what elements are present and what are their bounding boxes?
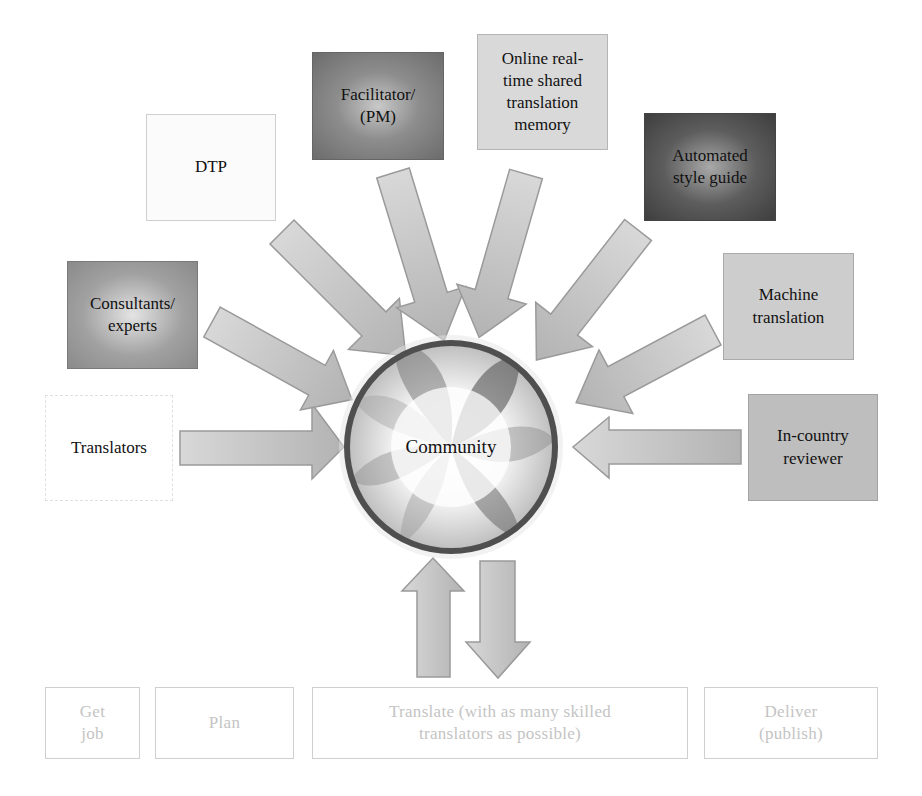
label-translators: Translators [71,437,147,459]
arrow-translators [180,404,344,479]
arrow-down-from-community [466,561,530,678]
step-plan: Plan [155,687,294,759]
label-machine-translation-line2: translation [753,307,825,329]
box-machine-translation: Machine translation [723,253,854,360]
box-dtp: DTP [146,114,276,221]
label-facilitator-line1: Facilitator/ [341,84,416,106]
box-translators: Translators [45,395,173,501]
arrow-reviewer [573,417,741,478]
label-reviewer-line1: In-country [777,425,849,447]
label-online-tm-line2: time shared [502,70,584,92]
label-consultants-line2: experts [90,315,175,337]
box-style-guide: Automated style guide [644,113,776,221]
step-translate-line1: Translate (with as many skilled [389,701,611,723]
step-get-job-line1: Get [80,701,105,723]
label-facilitator-line2: (PM) [341,106,416,128]
label-machine-translation-line1: Machine [753,284,825,306]
label-consultants-line1: Consultants/ [90,293,175,315]
box-facilitator: Facilitator/ (PM) [312,52,444,160]
label-dtp: DTP [195,156,227,178]
step-get-job-line2: job [80,723,105,745]
step-deliver-line2: (publish) [759,723,823,745]
arrow-up-to-community [402,558,464,677]
step-deliver-line1: Deliver [759,701,823,723]
label-reviewer-line2: reviewer [777,448,849,470]
community-translation-diagram: Translators Consultants/ experts DTP Fac… [0,0,922,796]
label-style-guide-line2: style guide [672,167,748,189]
step-translate: Translate (with as many skilled translat… [312,687,688,759]
box-reviewer: In-country reviewer [748,394,878,501]
label-style-guide-line1: Automated [672,145,748,167]
step-deliver: Deliver (publish) [704,687,878,759]
label-online-tm-line4: memory [502,114,584,136]
step-get-job: Get job [45,687,140,759]
label-online-tm-line3: translation [502,92,584,114]
box-consultants: Consultants/ experts [67,261,198,369]
label-online-tm-line1: Online real- [502,48,584,70]
hub-label: Community [406,436,497,458]
box-online-tm: Online real- time shared translation mem… [477,34,608,150]
step-plan-label: Plan [209,712,240,734]
step-translate-line2: translators as possible) [389,723,611,745]
